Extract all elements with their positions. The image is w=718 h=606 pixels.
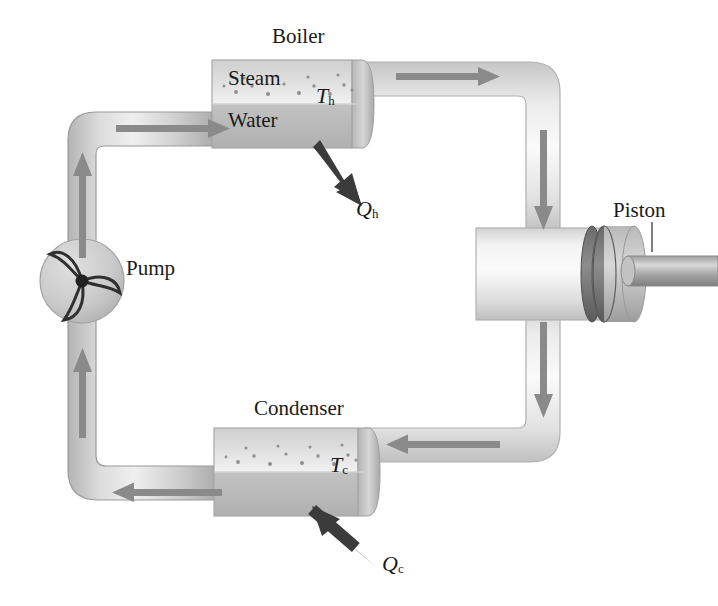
- boiler-label: Boiler: [272, 26, 325, 47]
- t-cold-symbol: T: [330, 452, 342, 477]
- q-hot-symbol: Q: [356, 196, 372, 221]
- temperature-hot-label: Th: [316, 83, 335, 109]
- diagram-canvas: Boiler Steam Water Condenser Pump Piston…: [0, 0, 718, 606]
- pump-label: Pump: [126, 258, 175, 279]
- heat-hot-label: Qh: [356, 196, 378, 222]
- pump-hub: [76, 275, 89, 288]
- piston-rod: [628, 256, 718, 286]
- q-hot-arrow: [312, 140, 362, 208]
- heat-cold-label: Qc: [382, 551, 404, 577]
- q-cold-symbol: Q: [382, 551, 398, 576]
- q-hot-subscript: h: [372, 206, 379, 221]
- pipe-left-bottom: [68, 300, 214, 500]
- condenser-label: Condenser: [254, 398, 344, 419]
- t-hot-subscript: h: [328, 93, 335, 108]
- diagram-svg: [0, 0, 718, 606]
- piston-assembly: [476, 222, 718, 322]
- piston-rod-cap: [621, 256, 635, 286]
- steam-label: Steam: [228, 68, 281, 89]
- water-label: Water: [228, 110, 278, 131]
- q-cold-subscript: c: [398, 561, 404, 576]
- condenser-vessel: [214, 428, 380, 516]
- piston-label: Piston: [613, 200, 666, 221]
- pipe-top-right: [358, 62, 560, 232]
- t-hot-symbol: T: [316, 83, 328, 108]
- temperature-cold-label: Tc: [330, 452, 348, 478]
- t-cold-subscript: c: [342, 462, 348, 477]
